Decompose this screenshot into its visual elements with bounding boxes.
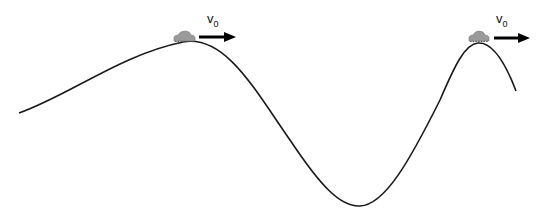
- diagram-canvas: v0 v0: [0, 0, 546, 218]
- car-1: [174, 31, 195, 42]
- arrow-head-icon: [518, 33, 530, 43]
- car-body-icon: [469, 31, 489, 41]
- car-2: [469, 31, 489, 42]
- arrow-head-icon: [224, 32, 236, 42]
- velocity-arrow-2: [494, 33, 530, 43]
- track-curve: [19, 41, 516, 206]
- velocity-arrow-1: [199, 32, 236, 42]
- velocity-label-1: v0: [207, 11, 219, 29]
- car-body-icon: [174, 31, 195, 41]
- velocity-label-2: v0: [496, 11, 508, 29]
